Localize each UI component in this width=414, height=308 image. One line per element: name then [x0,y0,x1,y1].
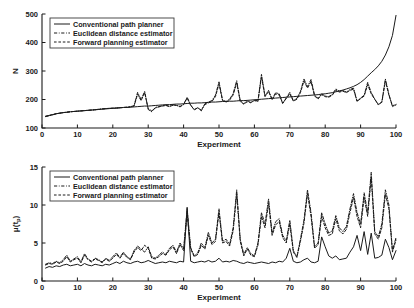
x-tick-label-0-7: 70 [286,130,294,139]
y-axis-label-group-1: μ(tp) [11,216,21,233]
x-tick-label-1-6: 60 [250,283,258,292]
y-axis-label-close-1: ) [11,216,20,219]
x-tick-label-0-6: 60 [250,130,258,139]
legend-label-1-2: Forward planning estimator [73,191,168,200]
y-tick-label-1-3: 15 [30,163,38,172]
y-tick-label-0-4: 500 [25,10,38,19]
y-tick-label-1-2: 10 [30,201,38,210]
x-tick-label-0-0: 0 [40,130,44,139]
x-axis-label-1: Experiment [197,293,241,302]
x-tick-label-0-9: 90 [356,130,364,139]
series-line-0-2 [46,77,396,117]
x-tick-label-1-10: 100 [390,283,403,292]
legend-label-1-0: Conventional path planner [73,173,164,182]
y-axis-label-1: μ(tp) [11,216,21,233]
y-tick-label-1-0: 0 [34,277,38,286]
figure-container: 0102030405060708090100100200300400500Exp… [0,0,414,308]
y-tick-label-0-2: 300 [25,67,38,76]
y-tick-label-0-3: 400 [25,38,38,47]
x-tick-label-0-1: 10 [73,130,81,139]
x-tick-label-0-10: 100 [390,130,403,139]
x-tick-label-0-5: 50 [215,130,223,139]
legend-1: Conventional path plannerEuclidean dista… [50,171,174,201]
x-tick-label-1-8: 80 [321,283,329,292]
y-tick-label-0-0: 100 [25,124,38,133]
chart-panel-bottom: 0102030405060708090100051015Experimentμ(… [0,153,414,308]
y-axis-label-group-0: N [11,68,20,74]
chart-svg-bottom: 0102030405060708090100051015Experimentμ(… [0,153,414,308]
y-tick-label-0-1: 200 [25,95,38,104]
x-axis-label-0: Experiment [197,140,241,149]
x-tick-label-1-9: 90 [356,283,364,292]
y-tick-label-1-1: 5 [34,239,38,248]
chart-panel-top: 0102030405060708090100100200300400500Exp… [0,0,414,155]
y-axis-label-0: N [11,68,20,74]
legend-0: Conventional path plannerEuclidean dista… [50,18,174,48]
y-axis-label-base-1: μ(t [11,222,20,233]
x-tick-label-0-8: 80 [321,130,329,139]
x-tick-label-0-3: 30 [144,130,152,139]
x-tick-label-1-5: 50 [215,283,223,292]
legend-label-1-1: Euclidean distance estimator [73,182,173,191]
x-tick-label-1-4: 40 [179,283,187,292]
x-tick-label-1-1: 10 [73,283,81,292]
x-tick-label-1-3: 30 [144,283,152,292]
x-tick-label-0-2: 20 [109,130,117,139]
series-line-0-1 [46,74,396,116]
legend-label-0-0: Conventional path planner [73,20,164,29]
x-tick-label-1-7: 70 [286,283,294,292]
legend-label-0-2: Forward planning estimator [73,38,168,47]
legend-label-0-1: Euclidean distance estimator [73,29,173,38]
chart-svg-top: 0102030405060708090100100200300400500Exp… [0,0,414,155]
x-tick-label-1-2: 20 [109,283,117,292]
x-tick-label-0-4: 40 [179,130,187,139]
x-tick-label-1-0: 0 [40,283,44,292]
